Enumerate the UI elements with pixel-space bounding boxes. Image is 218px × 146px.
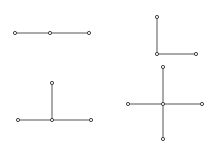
node [161, 102, 164, 105]
t-shape-graph [16, 81, 92, 121]
node [200, 102, 203, 105]
node [16, 118, 19, 121]
l-shape-graph [155, 15, 197, 55]
node [155, 15, 158, 18]
diagram-canvas [0, 0, 218, 146]
node [161, 65, 164, 68]
node [13, 31, 16, 34]
node [89, 118, 92, 121]
node [50, 118, 53, 121]
cross-shape-graph [126, 65, 203, 140]
node [48, 31, 51, 34]
node [87, 31, 90, 34]
node [50, 81, 53, 84]
node [161, 137, 164, 140]
straight-line-graph [13, 31, 90, 34]
node [194, 52, 197, 55]
node [126, 102, 129, 105]
node [155, 52, 158, 55]
